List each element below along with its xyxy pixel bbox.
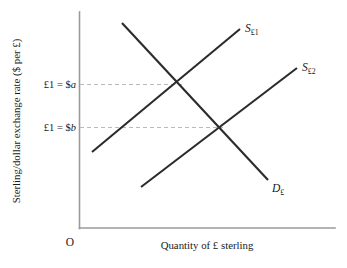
origin-label: O	[66, 236, 74, 248]
price-tick-a-variable: a	[71, 79, 76, 90]
price-tick-b-prefix: £1 = $	[44, 122, 71, 133]
demand-curve-sterling	[122, 23, 268, 180]
y-axis-title: Sterling/dollar exchange rate ($ per £)	[10, 38, 23, 203]
supply-curve-sterling-1	[92, 29, 240, 152]
exchange-rate-diagram: S£1 S£2 D£ £1 = $a £1 = $b O Quantity of…	[0, 0, 347, 268]
supply-curve-1-label-subscript: £1	[251, 28, 259, 37]
diagram-canvas: S£1 S£2 D£ £1 = $a £1 = $b O Quantity of…	[0, 0, 347, 268]
supply-curve-1-label: S£1	[245, 22, 259, 37]
demand-curve-label-subscript: £	[280, 188, 284, 197]
supply-curve-2-label: S£2	[302, 61, 316, 76]
x-axis-title: Quantity of £ sterling	[161, 239, 254, 251]
demand-curve-label: D£	[271, 182, 284, 197]
price-tick-label-b: £1 = $b	[44, 122, 76, 133]
price-tick-label-a: £1 = $a	[44, 79, 76, 90]
price-tick-b-variable: b	[71, 122, 76, 133]
price-tick-a-prefix: £1 = $	[44, 79, 71, 90]
supply-curve-2-label-subscript: £2	[308, 67, 316, 76]
